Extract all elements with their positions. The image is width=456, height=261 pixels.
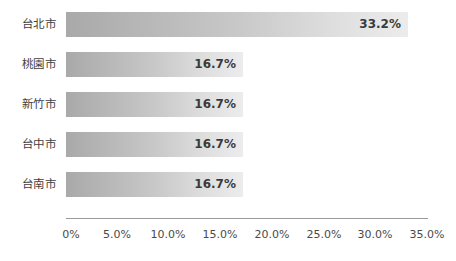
bar-chart: 台北市 33.2% 桃園市 16.7% 新竹市 16.7% — [0, 0, 456, 261]
bar[interactable]: 16.7% — [66, 92, 243, 117]
category-label: 台南市 — [0, 172, 56, 197]
bar[interactable]: 33.2% — [66, 12, 408, 37]
bar-value-label: 16.7% — [194, 132, 236, 157]
bar-value-label: 16.7% — [194, 92, 236, 117]
category-label: 台中市 — [0, 132, 56, 157]
bar-value-label: 16.7% — [194, 52, 236, 77]
bar[interactable]: 16.7% — [66, 172, 243, 197]
bar[interactable]: 16.7% — [66, 52, 243, 77]
bar-row: 台南市 16.7% — [0, 172, 456, 197]
category-label: 新竹市 — [0, 92, 56, 117]
bar-track: 16.7% — [66, 52, 456, 77]
bar-row: 桃園市 16.7% — [0, 52, 456, 77]
x-tick-label: 5.0% — [103, 228, 131, 242]
x-tick-label: 0% — [62, 228, 79, 242]
bar-track: 33.2% — [66, 12, 456, 37]
bar-track: 16.7% — [66, 132, 456, 157]
x-tick-label: 30.0% — [358, 228, 393, 242]
bar-row: 台中市 16.7% — [0, 132, 456, 157]
x-tick-label: 20.0% — [255, 228, 290, 242]
bar-row: 新竹市 16.7% — [0, 92, 456, 117]
bar[interactable]: 16.7% — [66, 132, 243, 157]
bar-track: 16.7% — [66, 172, 456, 197]
x-tick-label: 10.0% — [151, 228, 186, 242]
bar-track: 16.7% — [66, 92, 456, 117]
x-tick-label: 25.0% — [307, 228, 342, 242]
x-tick-label: 15.0% — [203, 228, 238, 242]
x-axis-tick-labels: 0% 5.0% 10.0% 15.0% 20.0% 25.0% 30.0% 35… — [0, 228, 456, 248]
category-label: 桃園市 — [0, 52, 56, 77]
bar-value-label: 16.7% — [194, 172, 236, 197]
x-tick-label: 35.0% — [410, 228, 445, 242]
bar-row: 台北市 33.2% — [0, 12, 456, 37]
bar-value-label: 33.2% — [359, 12, 401, 37]
category-label: 台北市 — [0, 12, 56, 37]
x-axis-line — [66, 218, 428, 219]
plot-area: 台北市 33.2% 桃園市 16.7% 新竹市 16.7% — [0, 0, 456, 206]
